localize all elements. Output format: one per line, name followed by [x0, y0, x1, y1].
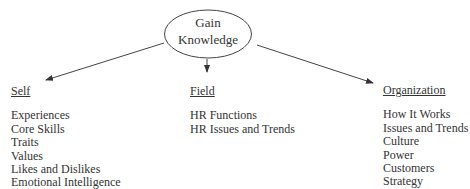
list-item: Emotional Intelligence	[11, 176, 121, 189]
arrow-to-organization	[257, 45, 373, 83]
list-item: Issues and Trends	[383, 122, 468, 135]
list-item: Traits	[11, 136, 121, 149]
list-item: How It Works	[383, 108, 468, 121]
center-line-1: Gain	[164, 14, 252, 31]
list-item: Experiences	[11, 109, 121, 122]
list-item: Values	[11, 150, 121, 163]
field-column: Field HR Functions HR Issues and Trends	[190, 85, 295, 136]
self-heading: Self	[11, 85, 121, 98]
list-item: Core Skills	[11, 123, 121, 136]
list-item: Culture	[383, 135, 468, 148]
self-column: Self Experiences Core Skills Traits Valu…	[11, 85, 121, 189]
list-item: Customers	[383, 162, 468, 175]
field-heading: Field	[190, 85, 295, 98]
list-item: Strategy	[383, 175, 468, 188]
arrow-to-self	[46, 43, 164, 80]
list-item: Likes and Dislikes	[11, 163, 121, 176]
gain-knowledge-label: Gain Knowledge	[164, 14, 252, 48]
center-line-2: Knowledge	[164, 31, 252, 48]
list-item: HR Functions	[190, 109, 295, 122]
list-item: HR Issues and Trends	[190, 123, 295, 136]
organization-column: Organization How It Works Issues and Tre…	[383, 84, 468, 189]
organization-heading: Organization	[383, 84, 468, 97]
list-item: Power	[383, 149, 468, 162]
